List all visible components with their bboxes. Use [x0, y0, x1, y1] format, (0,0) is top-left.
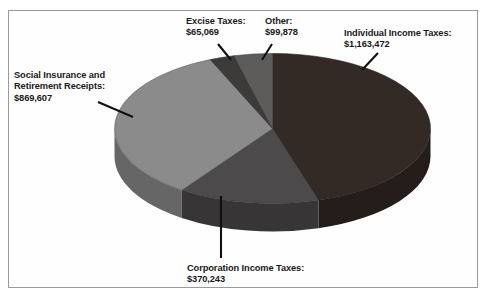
callout-name-social-line2: Retirement Receipts:: [14, 81, 105, 91]
pie-top-face: [114, 54, 430, 204]
callout-name-social-line1: Social Insurance and: [14, 70, 105, 80]
callout-amount-excise: $65,069: [186, 27, 246, 38]
callout-amount-corporation: $370,243: [187, 274, 304, 285]
callout-name-corporation: Corporation Income Taxes:: [187, 263, 304, 273]
callout-amount-individual: $1,163,472: [344, 39, 451, 50]
callout-name-excise: Excise Taxes:: [186, 16, 246, 26]
callout-label-social-insurance: Social Insurance and Retirement Receipts…: [14, 70, 105, 104]
callout-name-individual: Individual Income Taxes:: [344, 28, 451, 38]
callout-amount-other: $99,878: [265, 27, 298, 38]
callout-amount-social: $869,607: [14, 93, 105, 104]
callout-label-other: Other: $99,878: [265, 16, 298, 39]
callout-label-excise-taxes: Excise Taxes: $65,069: [186, 16, 246, 39]
callout-name-other: Other:: [265, 16, 292, 26]
callout-label-individual-income-taxes: Individual Income Taxes: $1,163,472: [344, 28, 451, 51]
callout-label-corporation-income-taxes: Corporation Income Taxes: $370,243: [187, 263, 304, 286]
leader-line-individual: [362, 53, 378, 70]
